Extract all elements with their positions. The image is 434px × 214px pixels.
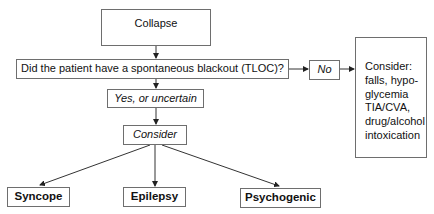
syncope-label: Syncope xyxy=(15,190,63,204)
tloc-question-node: Did the patient have a spontaneous black… xyxy=(16,59,289,79)
alternative-causes-label: Consider: falls, hypo- glycemia TIA/CVA,… xyxy=(365,60,425,143)
no-label: No xyxy=(317,63,331,76)
collapse-node: Collapse xyxy=(101,9,211,46)
yes-label: Yes, or uncertain xyxy=(114,92,197,105)
psychogenic-label: Psychogenic xyxy=(245,191,316,205)
psychogenic-node: Psychogenic xyxy=(240,188,321,208)
epilepsy-label: Epilepsy xyxy=(131,190,178,204)
consider-node: Consider xyxy=(123,125,187,145)
arrow-consider-to-psychogenic xyxy=(162,145,279,186)
alternative-causes-node: Consider: falls, hypo- glycemia TIA/CVA,… xyxy=(355,37,427,158)
question-label: Did the patient have a spontaneous black… xyxy=(21,62,284,75)
collapse-label: Collapse xyxy=(135,17,178,30)
yes-uncertain-node: Yes, or uncertain xyxy=(107,89,204,108)
consider-label: Consider xyxy=(133,128,177,141)
syncope-node: Syncope xyxy=(7,187,70,207)
arrow-consider-to-syncope xyxy=(40,145,150,185)
epilepsy-node: Epilepsy xyxy=(123,187,186,207)
no-node: No xyxy=(309,60,340,80)
